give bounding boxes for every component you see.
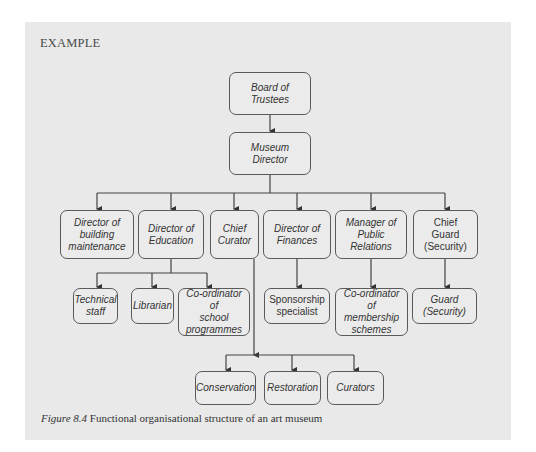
node-curators: Curators — [327, 371, 384, 405]
node-director-finances: Director of Finances — [263, 210, 331, 259]
node-museum-director: Museum Director — [229, 132, 311, 175]
figure-caption: Figure 8.4 Functional organisational str… — [41, 412, 322, 424]
node-coordinator-school-programmes: Co-ordinator of school programmes — [178, 288, 250, 336]
node-guard-security: Guard (Security) — [412, 288, 477, 324]
node-librarian: Librarian — [131, 288, 174, 324]
node-chief-guard: Chief Guard (Security) — [413, 210, 478, 259]
caption-text: Functional organisational structure of a… — [87, 412, 322, 424]
node-technical-staff: Technical staff — [73, 288, 118, 324]
node-conservation: Conservation — [195, 371, 256, 405]
node-board-of-trustees: Board of Trustees — [229, 72, 311, 115]
caption-label: Figure 8.4 — [41, 412, 87, 424]
node-sponsorship-specialist: Sponsorship specialist — [264, 288, 330, 324]
node-coordinator-membership-schemes: Co-ordinator of membership schemes — [335, 288, 408, 336]
node-director-education: Director of Education — [138, 210, 204, 259]
node-chief-curator: Chief Curator — [210, 210, 259, 259]
node-restoration: Restoration — [264, 371, 321, 405]
node-manager-public-relations: Manager of Public Relations — [335, 210, 407, 259]
node-director-building-maintenance: Director of building maintenance — [60, 210, 134, 259]
